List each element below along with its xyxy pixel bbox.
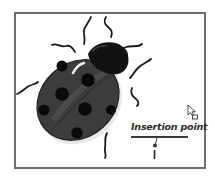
ladybug [21,42,139,161]
illustration-canvas [0,0,215,178]
insertion-point-callout [131,137,188,159]
callout-dot [153,144,157,148]
insertion-point-label: Insertion point [131,121,207,132]
callout-leader [156,138,158,144]
arrow-cursor-icon [188,105,198,119]
